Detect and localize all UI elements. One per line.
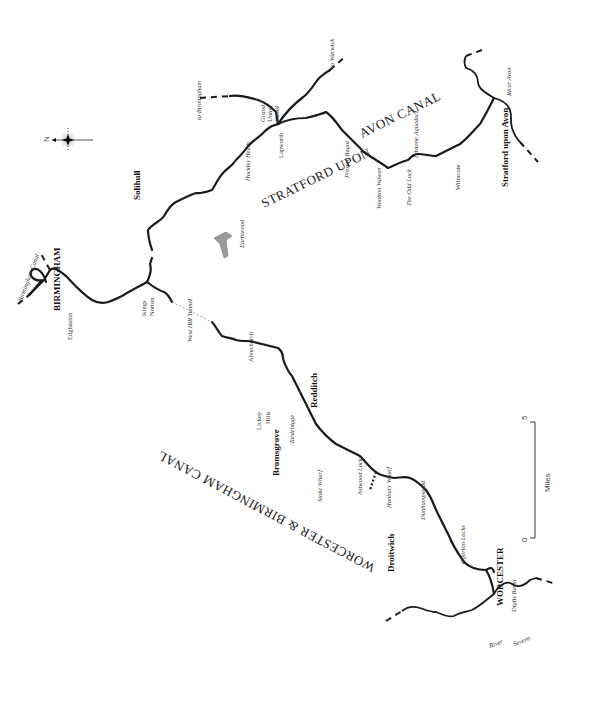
earlswood-reservoir xyxy=(214,232,232,258)
label-diglis-basin: Diglis Basin xyxy=(510,580,517,613)
label-kings: Kings xyxy=(140,300,147,316)
scale-start-label: 0 xyxy=(520,537,529,542)
label-severn: Severn xyxy=(512,634,531,647)
canal-name-avon-canal: AVON CANAL xyxy=(357,88,443,140)
label-wilmcote: Wilmcote xyxy=(454,165,461,190)
label-hockley-heath: Hockley Heath xyxy=(244,142,251,182)
label-to-warwick: to Warwick xyxy=(328,39,335,68)
grand-union-to-birmingham xyxy=(200,96,230,98)
town-birmingham: BIRMINGHAM xyxy=(52,247,62,311)
river-severn-west-end xyxy=(386,611,402,621)
label-grand: Grand xyxy=(259,104,266,122)
town-worcester: WORCESTER xyxy=(495,547,505,606)
label-lickey: Lickey xyxy=(255,411,262,430)
label-to-birmingham: to Birmingham xyxy=(195,81,202,120)
town-bromsgrove: Bromsgrove xyxy=(271,429,281,476)
canal-map: N 5 0 Miles BIRMINGHAM Solihull Redditch… xyxy=(0,0,599,721)
label-preston-bagot: Preston Bagot xyxy=(343,141,350,179)
label-river-avon: River Avon xyxy=(505,67,512,97)
town-stratford-upon-avon: Stratford upon Avon xyxy=(500,108,510,187)
label-astwood-locks: Astwood Locks xyxy=(356,455,363,496)
droitwich-branch xyxy=(370,472,376,490)
worcester-birmingham-canal-north xyxy=(50,269,147,303)
diglis-basin-link xyxy=(486,570,494,594)
grand-union-canal-east xyxy=(278,70,330,124)
compass-north-label: N xyxy=(42,136,51,142)
label-alvechurch: Alvechurch xyxy=(247,331,254,362)
worcester-birmingham-canal-south xyxy=(212,322,494,572)
label-canal: Canal xyxy=(273,106,280,122)
label-the-odd-lock: The Odd Lock xyxy=(405,169,412,206)
label-river: River xyxy=(487,637,504,649)
stratford-canal-north xyxy=(147,124,278,282)
label-norton: Norton xyxy=(148,297,155,316)
river-avon-south-end xyxy=(520,142,538,162)
compass-rose-icon: N xyxy=(42,128,93,152)
scale-bar: 5 0 Miles xyxy=(520,415,552,542)
label-dunhampstead: Dunhampstead xyxy=(419,480,426,521)
canal-name-stratford-upon: STRATFORD UPON xyxy=(259,145,374,211)
river-avon-north-end xyxy=(466,50,482,56)
town-redditch: Redditch xyxy=(309,373,319,408)
label-stoke-wharf: Stoke Wharf xyxy=(316,469,323,502)
label-wootton-wawen: Wootton Wawen xyxy=(375,167,382,209)
scale-end-label: 5 xyxy=(520,415,529,420)
label-offerton-locks: Offerton Locks xyxy=(459,525,466,564)
label-edstone-aqueduct: Edstone Aqueduct xyxy=(412,111,419,159)
label-west-hill-tunnel: West Hill Tunnel xyxy=(186,299,193,342)
label-tardebigge: Tardebigge xyxy=(288,415,295,444)
label-earlswood: Earlswood xyxy=(238,219,245,249)
label-edgbaston: Edgbaston xyxy=(66,312,73,340)
label-lapworth: Lapworth xyxy=(277,132,284,158)
label-union: Union xyxy=(266,106,273,122)
scale-unit-label: Miles xyxy=(543,473,552,492)
town-droitwich: Droitwich xyxy=(386,534,396,572)
stratford-canal-south xyxy=(278,98,494,168)
label-hanbury-wharf: Hanbury Wharf xyxy=(385,466,392,509)
river-severn-east-end xyxy=(536,578,556,584)
canal-name-worcester-birmingham: WORCESTER & BIRMINGHAM CANAL xyxy=(155,448,378,576)
label-hills: Hills xyxy=(264,411,271,424)
town-solihull: Solihull xyxy=(132,170,142,200)
